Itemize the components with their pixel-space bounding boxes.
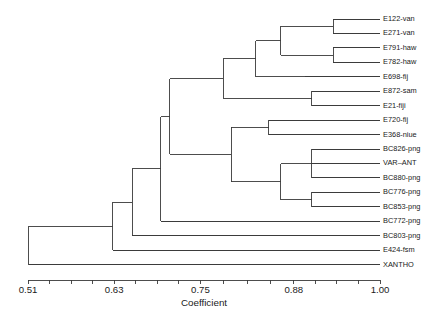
leaf-label: E424-fsm — [383, 245, 415, 254]
leaf-label: BC803-png — [383, 231, 420, 240]
x-axis-group: 0.510.630.750.881.00 — [19, 280, 390, 295]
x-axis-tick-label: 1.00 — [371, 284, 390, 295]
dendrogram-plot: E122-vanE271-vanE791-hawE782-hawE698-fij… — [0, 0, 439, 324]
x-axis-title: Coefficient — [181, 297, 227, 308]
leaf-label: E271-van — [383, 28, 415, 37]
leaf-label: E791-haw — [383, 43, 417, 52]
leaf-label: VAR–ANT — [383, 158, 417, 167]
leaf-label: E368-niue — [383, 130, 417, 139]
x-axis-tick-label: 0.63 — [105, 284, 124, 295]
leaf-label: BC776-png — [383, 187, 420, 196]
dendrogram-figure: E122-vanE271-vanE791-hawE782-hawE698-fij… — [0, 0, 439, 324]
x-axis-tick-label: 0.88 — [284, 284, 303, 295]
leaf-labels-group: E122-vanE271-vanE791-hawE782-hawE698-fij… — [383, 14, 420, 269]
leaf-label: E720-fij — [383, 115, 408, 124]
x-axis-tick-label: 0.75 — [191, 284, 210, 295]
leaf-label: E122-van — [383, 14, 415, 23]
leaf-label: BC772-png — [383, 216, 420, 225]
branch-lines-group — [29, 19, 380, 265]
leaf-label: E782-haw — [383, 57, 417, 66]
leaf-label: E872-sam — [383, 86, 417, 95]
leaf-label: BC853-png — [383, 202, 420, 211]
leaf-label: BC880-png — [383, 173, 420, 182]
x-axis-tick-label: 0.51 — [19, 284, 38, 295]
leaf-label: BC826-png — [383, 144, 420, 153]
leaf-label: XANTHO — [383, 260, 414, 269]
leaf-label: E698-fij — [383, 72, 408, 81]
leaf-label: E21-fiji — [383, 101, 406, 110]
